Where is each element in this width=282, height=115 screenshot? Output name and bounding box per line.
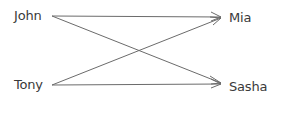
edge-tony-mia [52, 18, 221, 85]
edge-tony-sasha [52, 84, 221, 85]
edge-john-mia [52, 16, 221, 17]
edge-john-sasha [52, 16, 221, 83]
edges [0, 0, 282, 115]
